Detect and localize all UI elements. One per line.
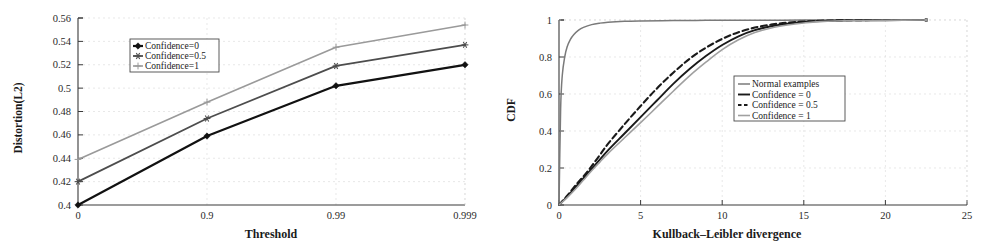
right-x-axis-title: Kullback–Leibler divergence xyxy=(653,227,802,241)
series-endpoint-3 xyxy=(924,18,928,22)
y-tick-label: 0 xyxy=(547,200,552,211)
x-tick-label: 5 xyxy=(638,210,643,221)
left-legend: Confidence=0Confidence=0.5Confidence=1 xyxy=(130,39,219,72)
left-x-axis-title: Threshold xyxy=(245,227,298,241)
left-y-axis-title: Distortion(L2) xyxy=(12,82,25,153)
x-tick-label: 0.9 xyxy=(200,210,213,221)
data-point-marker xyxy=(462,22,469,29)
data-point-marker xyxy=(75,156,82,163)
right-legend: Normal examplesConfidence = 0Confidence … xyxy=(734,76,845,121)
series-line-0 xyxy=(78,65,465,205)
data-point-marker xyxy=(462,62,468,68)
left-chart-svg: 00.90.990.999 0.40.420.440.460.480.50.52… xyxy=(0,0,497,245)
legend-label-2: Confidence = 0.5 xyxy=(752,100,818,110)
legend-label-1: Confidence = 0 xyxy=(752,90,811,100)
right-y-tick-labels: 00.20.40.60.81 xyxy=(539,15,553,211)
y-tick-label: 0.54 xyxy=(53,36,72,47)
legend-label-2: Confidence=1 xyxy=(145,61,199,71)
x-tick-label: 25 xyxy=(962,210,973,221)
legend-label-3: Confidence = 1 xyxy=(752,111,811,121)
right-y-axis-title: CDF xyxy=(505,98,517,122)
x-tick-label: 0 xyxy=(556,210,561,221)
chart-panel-right: 0510152025 00.20.40.60.81 Normal example… xyxy=(497,0,995,245)
data-point-marker xyxy=(333,44,340,51)
y-tick-label: 0.4 xyxy=(58,200,72,211)
y-tick-label: 0.52 xyxy=(53,59,71,70)
y-tick-label: 0.44 xyxy=(53,153,72,164)
chart-panel-left: 00.90.990.999 0.40.420.440.460.480.50.52… xyxy=(0,0,497,245)
y-tick-label: 1 xyxy=(547,15,552,26)
legend-label-0: Confidence=0 xyxy=(145,41,199,51)
y-tick-label: 0.2 xyxy=(539,163,552,174)
figure-container: 00.90.990.999 0.40.420.440.460.480.50.52… xyxy=(0,0,995,245)
left-x-tick-labels: 00.90.990.999 xyxy=(75,210,476,221)
right-x-tick-labels: 0510152025 xyxy=(556,210,972,221)
y-tick-label: 0.8 xyxy=(539,52,552,63)
legend-label-1: Confidence=0.5 xyxy=(145,51,206,61)
x-tick-label: 0 xyxy=(75,210,80,221)
left-y-tick-labels: 0.40.420.440.460.480.50.520.540.56 xyxy=(53,13,72,211)
x-tick-label: 0.99 xyxy=(327,210,345,221)
data-point-marker xyxy=(204,99,211,106)
y-tick-label: 0.6 xyxy=(539,89,552,100)
x-tick-label: 20 xyxy=(880,210,891,221)
y-tick-label: 0.5 xyxy=(58,83,71,94)
legend-label-0: Normal examples xyxy=(752,79,820,89)
y-tick-label: 0.48 xyxy=(53,106,71,117)
right-chart-svg: 0510152025 00.20.40.60.81 Normal example… xyxy=(497,0,995,245)
y-tick-label: 0.46 xyxy=(53,129,71,140)
y-tick-label: 0.42 xyxy=(53,176,71,187)
x-tick-label: 0.999 xyxy=(453,210,477,221)
y-tick-label: 0.4 xyxy=(539,126,553,137)
marker-diamond xyxy=(462,62,468,68)
x-tick-label: 15 xyxy=(799,210,810,221)
x-tick-label: 10 xyxy=(717,210,728,221)
y-tick-label: 0.56 xyxy=(53,13,71,24)
data-point-marker xyxy=(462,42,469,48)
